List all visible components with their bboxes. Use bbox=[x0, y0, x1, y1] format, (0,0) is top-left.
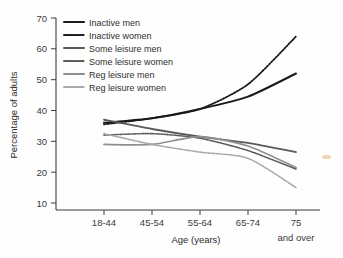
y-tick-label-20: 20 bbox=[36, 167, 47, 178]
x-tick-label-55-64: 55-64 bbox=[188, 217, 212, 228]
chart-legend: Inactive men Inactive women Some leisure… bbox=[64, 18, 173, 93]
x-tick-label-45-54: 45-54 bbox=[140, 217, 164, 228]
y-tick-label-40: 40 bbox=[36, 105, 47, 116]
y-tick-label-50: 50 bbox=[36, 74, 47, 85]
legend-label-some-leisure-women: Some leisure women bbox=[89, 57, 173, 67]
legend-label-reg-leisure-men: Reg leisure men bbox=[89, 70, 155, 80]
legend-label-inactive-women: Inactive women bbox=[89, 31, 152, 41]
legend-entry-reg-leisure-women: Reg leisure women bbox=[64, 83, 166, 93]
y-tick-label-30: 30 bbox=[36, 136, 47, 147]
x-tick-label-18-44: 18-44 bbox=[92, 217, 116, 228]
series-line-reg-leisure-women bbox=[104, 134, 296, 188]
legend-entry-reg-leisure-men: Reg leisure men bbox=[64, 70, 155, 80]
scan-artifact bbox=[322, 155, 331, 159]
x-tick-label-75: 75 bbox=[291, 217, 302, 228]
y-axis-title: Percentage of adults bbox=[8, 71, 19, 158]
legend-entry-inactive-women: Inactive women bbox=[64, 31, 152, 41]
legend-entry-some-leisure-women: Some leisure women bbox=[64, 57, 173, 67]
x-tick-sublabel-and-over: and over bbox=[278, 232, 315, 243]
y-tick-label-60: 60 bbox=[36, 43, 47, 54]
legend-label-reg-leisure-women: Reg leisure women bbox=[89, 83, 166, 93]
legend-entry-some-leisure-men: Some leisure men bbox=[64, 44, 162, 54]
y-axis: 70 60 50 40 30 20 10 Percentage of adult… bbox=[8, 13, 56, 211]
x-axis: 18-44 45-54 55-64 65-74 75 and over Age … bbox=[56, 210, 320, 245]
legend-label-inactive-men: Inactive men bbox=[89, 18, 140, 28]
legend-entry-inactive-men: Inactive men bbox=[64, 18, 140, 28]
x-axis-title: Age (years) bbox=[171, 234, 220, 245]
y-tick-label-70: 70 bbox=[36, 13, 47, 24]
y-tick-label-10: 10 bbox=[36, 198, 47, 209]
y-tick-marks bbox=[51, 18, 56, 203]
x-tick-marks bbox=[104, 210, 296, 215]
x-tick-label-65-74: 65-74 bbox=[236, 217, 260, 228]
series-line-some-leisure-women bbox=[104, 134, 296, 169]
line-chart: 70 60 50 40 30 20 10 Percentage of adult… bbox=[0, 0, 343, 258]
chart-figure: 70 60 50 40 30 20 10 Percentage of adult… bbox=[0, 0, 343, 258]
legend-label-some-leisure-men: Some leisure men bbox=[89, 44, 162, 54]
series-line-inactive-men bbox=[104, 74, 296, 123]
